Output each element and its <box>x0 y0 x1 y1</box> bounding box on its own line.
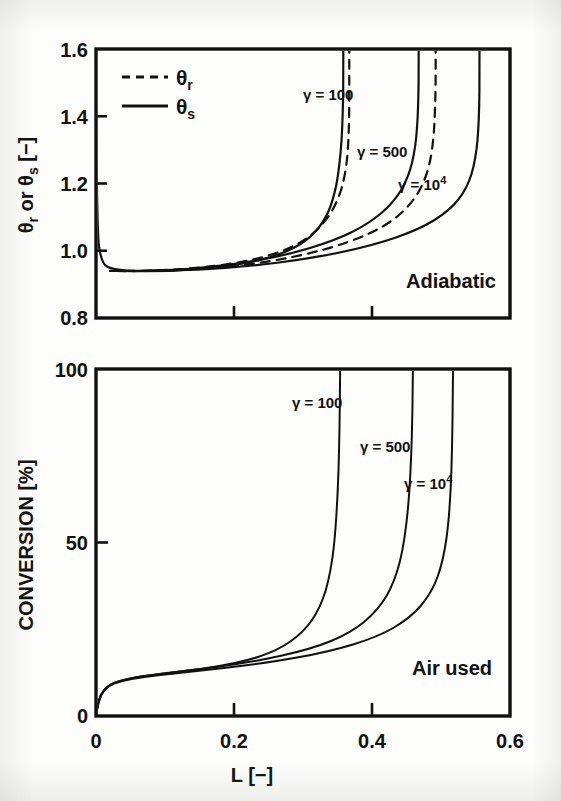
top-ylabel-sub-s: s <box>25 167 41 175</box>
legend-label-theta-s: θs <box>176 95 195 122</box>
bottom-panel-note: Air used <box>412 657 492 679</box>
bottom-ytick-100: 100 <box>55 359 88 381</box>
bottom-annot-gamma-100: γ = 100 <box>292 394 342 411</box>
top-x-ticks <box>234 306 372 318</box>
top-annot-gamma-500: γ = 500 <box>357 143 407 160</box>
top-ylabel-or: or <box>15 186 37 217</box>
svg-text:CONVERSION [%]: CONVERSION [%] <box>15 459 37 630</box>
curve-top-theta-r-g100 <box>110 49 349 271</box>
curve-bot-g1e4 <box>96 369 453 716</box>
figure-canvas: 1.6 1.4 1.2 1.0 0.8 θr or θs [−] <box>0 0 561 801</box>
bottom-xlabel: L [−] <box>231 764 273 786</box>
bottom-ylabel: CONVERSION [%] <box>15 459 37 630</box>
bottom-annot-gamma-500: γ = 500 <box>360 438 410 455</box>
top-legend: θr θs <box>122 66 195 122</box>
top-ylabel-units: [−] <box>15 137 37 168</box>
top-ylabel-theta2: θ <box>15 175 37 186</box>
top-ytick-0.8: 0.8 <box>60 307 88 329</box>
bottom-xtick-0.4: 0.4 <box>358 730 387 752</box>
bottom-x-ticks <box>234 703 372 716</box>
legend-label-theta-r: θr <box>176 66 193 93</box>
top-ytick-1.4: 1.4 <box>60 106 89 128</box>
bottom-annot-gamma-1e4: γ = 104 <box>404 473 453 492</box>
bottom-xtick-0.2: 0.2 <box>220 730 248 752</box>
svg-text:θr or θs [−]: θr or θs [−] <box>15 137 41 234</box>
top-ytick-1.2: 1.2 <box>60 173 88 195</box>
top-ylabel: θr or θs [−] <box>15 137 41 234</box>
curve-bot-g100 <box>96 369 340 716</box>
bottom-xtick-0.6: 0.6 <box>496 730 524 752</box>
top-ylabel-theta1: θ <box>15 222 37 233</box>
bottom-ytick-50: 50 <box>66 532 88 554</box>
top-panel-note: Adiabatic <box>406 270 496 292</box>
figure-root: 1.6 1.4 1.2 1.0 0.8 θr or θs [−] <box>0 0 561 801</box>
bottom-curves <box>96 369 453 716</box>
top-ytick-1.6: 1.6 <box>60 39 88 61</box>
curve-top-theta-r-g500 <box>117 49 436 271</box>
top-ytick-1.0: 1.0 <box>60 240 88 262</box>
top-annot-gamma-1e4: γ = 104 <box>398 174 447 193</box>
panel-top: 1.6 1.4 1.2 1.0 0.8 θr or θs [−] <box>15 39 510 329</box>
bottom-ytick-0: 0 <box>77 705 88 727</box>
panel-bottom: 100 50 0 0 0.2 0.4 0.6 L [−] CONVERSION … <box>15 359 524 786</box>
curve-top-theta-s-g1e4 <box>117 49 480 271</box>
top-curves <box>96 49 480 271</box>
top-annot-gamma-100: γ = 100 <box>303 86 353 103</box>
bottom-xtick-0: 0 <box>90 730 101 752</box>
